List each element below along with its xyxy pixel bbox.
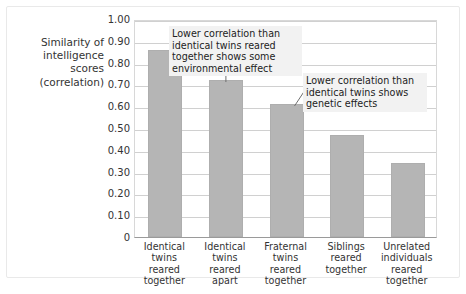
y-axis-tick-label: 0.80 <box>96 59 130 69</box>
x-axis-category-label: Unrelated individuals reared together <box>376 241 437 287</box>
x-axis-category-label: Fraternal twins reared together <box>255 241 316 287</box>
y-axis-tick-label: 0 <box>96 233 130 243</box>
x-axis-category-labels: Identical twins reared togetherIdentical… <box>134 241 437 289</box>
x-axis-category-label: Siblings reared together <box>316 241 377 275</box>
y-axis-tick-label: 1.00 <box>96 15 130 25</box>
y-axis-tick-label: 0.30 <box>96 168 130 178</box>
y-axis-tick-label: 0.90 <box>96 37 130 47</box>
annotation-genetic-effects: Lower correlation than identical twins s… <box>303 73 427 112</box>
y-axis-title: Similarity of intelligence scores (corre… <box>8 36 104 89</box>
x-axis-category-label: Identical twins reared together <box>134 241 195 287</box>
y-axis-tick-label: 0.40 <box>96 146 130 156</box>
y-axis-tick-label: 0.50 <box>96 124 130 134</box>
annotation-environmental-effect: Lower correlation than identical twins r… <box>169 26 302 76</box>
x-axis-category-label: Identical twins reared apart <box>195 241 256 287</box>
y-axis-tick-label: 0.70 <box>96 80 130 90</box>
y-axis-tick-labels: 1.000.900.800.700.600.500.400.300.200.10… <box>96 33 130 223</box>
y-axis-tick-label: 0.60 <box>96 102 130 112</box>
y-axis-tick-label: 0.20 <box>96 189 130 199</box>
y-axis-tick-label: 0.10 <box>96 211 130 221</box>
chart-figure: Similarity of intelligence scores (corre… <box>0 0 466 294</box>
